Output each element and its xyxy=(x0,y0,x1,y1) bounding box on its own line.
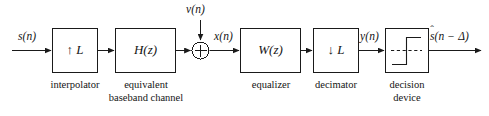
caption-decision-line2: device xyxy=(382,92,432,105)
output-remainder: (n − Δ) xyxy=(435,30,469,42)
label-output-signal: ˆs(n − Δ) xyxy=(430,31,469,43)
block-label-interpolator: ↑ L xyxy=(52,43,98,56)
block-label-equalizer: W(z) xyxy=(240,43,301,56)
caption-decision-line1: decision xyxy=(382,79,432,92)
caption-decimator: decimator xyxy=(308,79,364,92)
caption-equalizer: equalizer xyxy=(238,79,304,92)
hat-accent: ˆ xyxy=(430,24,434,35)
label-input-signal: s(n) xyxy=(18,31,36,43)
block-label-decimator: ↓ L xyxy=(313,43,359,56)
caption-channel-line2: baseband channel xyxy=(102,92,190,105)
block-label-channel: H(z) xyxy=(115,43,176,56)
caption-interpolator: interpolator xyxy=(30,79,120,92)
signum-glyph xyxy=(391,38,422,65)
label-x-signal: x(n) xyxy=(214,31,233,43)
output-s-with-hat: ˆs xyxy=(430,31,435,43)
caption-channel-line1: equivalent xyxy=(110,79,182,92)
block-diagram-figure: s(n) ν(n) x(n) y(n) ˆs(n − Δ) ↑ L H(z) W… xyxy=(0,0,489,116)
label-noise-signal: ν(n) xyxy=(186,4,205,16)
label-y-signal: y(n) xyxy=(360,31,379,43)
